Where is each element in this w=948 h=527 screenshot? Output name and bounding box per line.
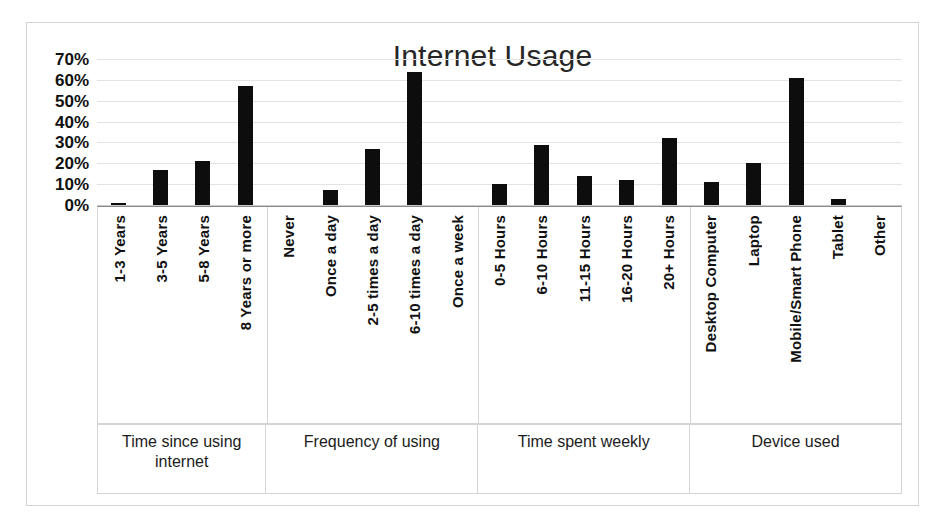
group-label: Time spent weekly <box>518 432 650 452</box>
category-label: 3-5 Years <box>153 215 170 282</box>
group-separator <box>478 207 479 423</box>
bar[interactable] <box>365 149 380 205</box>
category-slot: 2-5 times a day <box>352 207 394 423</box>
group-label: Device used <box>752 432 840 452</box>
category-label: Desktop Computer <box>702 215 719 352</box>
bar[interactable] <box>831 199 846 205</box>
category-label: Mobile/Smart Phone <box>787 215 804 363</box>
bar[interactable] <box>534 145 549 205</box>
bar-slot <box>606 59 648 205</box>
group-separator <box>690 207 691 423</box>
bar[interactable] <box>195 161 210 205</box>
category-slot: 16-20 Hours <box>605 207 647 423</box>
category-slot: Desktop Computer <box>690 207 732 423</box>
y-axis-tick: 10% <box>55 176 89 193</box>
category-slot: Laptop <box>732 207 774 423</box>
bar-slot <box>224 59 266 205</box>
category-label: Never <box>280 215 297 258</box>
y-axis-tick: 20% <box>55 155 89 172</box>
category-label: 1-3 Years <box>111 215 128 282</box>
category-label: Laptop <box>745 215 762 266</box>
y-axis: 70%60%50%40%30%20%10%0% <box>35 59 93 205</box>
category-slot: Mobile/Smart Phone <box>774 207 816 423</box>
category-label: 16-20 Hours <box>618 215 635 303</box>
bar-slot <box>97 59 139 205</box>
category-slot: Once a day <box>309 207 351 423</box>
bar-slot <box>309 59 351 205</box>
bar-slot <box>521 59 563 205</box>
bar[interactable] <box>407 72 422 205</box>
category-slot: 5-8 Years <box>183 207 225 423</box>
bar-slot <box>478 59 520 205</box>
y-axis-tick: 0% <box>64 197 89 214</box>
chart-frame: Internet Usage 70%60%50%40%30%20%10%0% 1… <box>26 22 919 506</box>
category-label: Tablet <box>829 215 846 259</box>
category-slot: 3-5 Years <box>140 207 182 423</box>
category-slot: 1-3 Years <box>98 207 140 423</box>
category-label: Other <box>871 215 888 256</box>
bar-slot <box>733 59 775 205</box>
category-slot: 6-10 times a day <box>394 207 436 423</box>
bar-slot <box>690 59 732 205</box>
group-separator <box>267 207 268 423</box>
category-label: 6-10 Hours <box>533 215 550 295</box>
bar[interactable] <box>789 78 804 205</box>
bar[interactable] <box>662 138 677 205</box>
bar-slot <box>436 59 478 205</box>
bar[interactable] <box>704 182 719 205</box>
bar[interactable] <box>153 170 168 205</box>
y-axis-tick: 40% <box>55 113 89 130</box>
group-label: Time since using internet <box>101 432 262 472</box>
bar-slot <box>648 59 690 205</box>
bar[interactable] <box>238 86 253 205</box>
y-axis-tick: 60% <box>55 71 89 88</box>
group-label-cell: Time since using internet <box>97 424 266 494</box>
bar-slot <box>563 59 605 205</box>
group-label-cell: Device used <box>690 424 902 494</box>
category-label: Once a week <box>449 215 466 308</box>
category-slot: Once a week <box>436 207 478 423</box>
bar[interactable] <box>577 176 592 205</box>
bar[interactable] <box>492 184 507 205</box>
bar[interactable] <box>746 163 761 205</box>
category-slot: Never <box>267 207 309 423</box>
bar-slot <box>860 59 902 205</box>
bar-slot <box>817 59 859 205</box>
category-slot: 8 Years or more <box>225 207 267 423</box>
category-slot: Other <box>859 207 901 423</box>
plot-area <box>97 59 902 205</box>
bar-slot <box>351 59 393 205</box>
group-label: Frequency of using <box>304 432 440 452</box>
y-axis-tick: 70% <box>55 51 89 68</box>
group-axis: Time since using internetFrequency of us… <box>97 424 902 494</box>
category-label: 6-10 times a day <box>406 215 423 334</box>
category-label: 11-15 Hours <box>576 215 593 302</box>
bar[interactable] <box>323 190 338 205</box>
bar-slot <box>182 59 224 205</box>
category-slot: Tablet <box>817 207 859 423</box>
category-slot: 11-15 Hours <box>563 207 605 423</box>
category-slot: 0-5 Hours <box>478 207 520 423</box>
group-label-cell: Frequency of using <box>266 424 478 494</box>
bar[interactable] <box>111 203 126 205</box>
category-label: 0-5 Hours <box>491 215 508 286</box>
category-label: 8 Years or more <box>237 215 254 330</box>
bar-slot <box>394 59 436 205</box>
bar-series <box>97 59 902 205</box>
category-label: 2-5 times a day <box>364 215 381 326</box>
bar-slot <box>139 59 181 205</box>
group-label-cell: Time spent weekly <box>478 424 690 494</box>
category-axis: 1-3 Years3-5 Years5-8 Years8 Years or mo… <box>97 206 902 424</box>
category-label: 20+ Hours <box>660 215 677 290</box>
bar[interactable] <box>619 180 634 205</box>
category-slot: 20+ Hours <box>647 207 689 423</box>
y-axis-tick: 50% <box>55 92 89 109</box>
category-label: 5-8 Years <box>195 215 212 282</box>
category-slot: 6-10 Hours <box>521 207 563 423</box>
bar-slot <box>267 59 309 205</box>
bar-slot <box>775 59 817 205</box>
y-axis-tick: 30% <box>55 134 89 151</box>
category-label: Once a day <box>322 215 339 297</box>
